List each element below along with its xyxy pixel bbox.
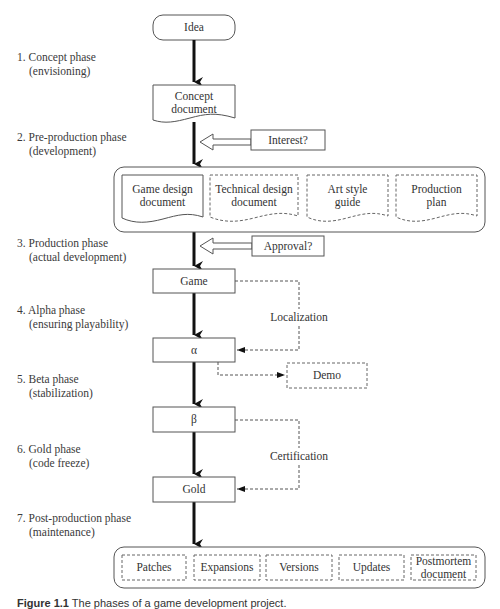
phase-7-label: 7. Post-production phase (maintenance)	[17, 511, 131, 539]
postmortem-document-label: Postmortem document	[411, 555, 476, 581]
game-label: Game	[153, 275, 235, 288]
expansions-label: Expansions	[194, 561, 260, 574]
localization-label: Localization	[259, 311, 339, 324]
technical-design-document-label: Technical design document	[210, 183, 298, 209]
concept-document-label: Concept document	[153, 90, 235, 116]
phase-5-label: 5. Beta phase (stabilization)	[17, 372, 93, 400]
demo-connector	[218, 362, 285, 375]
idea-label: Idea	[153, 21, 235, 34]
approval-gate-label: Approval?	[252, 240, 324, 253]
phase-2-label: 2. Pre-production phase (development)	[17, 130, 127, 158]
phase-4-label: 4. Alpha phase (ensuring playability)	[17, 303, 128, 331]
figure-caption: Figure 1.1 The phases of a game developm…	[17, 597, 286, 609]
game-design-document-label: Game design document	[122, 183, 203, 209]
demo-label: Demo	[287, 369, 367, 382]
patches-label: Patches	[122, 561, 186, 574]
interest-gate-label: Interest?	[251, 134, 325, 147]
versions-label: Versions	[266, 561, 332, 574]
gold-label: Gold	[153, 483, 235, 496]
interest-hollow-arrow	[200, 134, 251, 150]
phase-1-label: 1. Concept phase (envisioning)	[17, 50, 96, 78]
phase-6-label: 6. Gold phase (code freeze)	[17, 442, 89, 470]
production-plan-label: Production plan	[396, 183, 477, 209]
approval-hollow-arrow	[200, 238, 252, 254]
beta-label: β	[153, 413, 235, 426]
alpha-label: α	[153, 344, 235, 357]
art-style-guide-label: Art style guide	[307, 183, 388, 209]
certification-label: Certification	[259, 450, 339, 463]
phase-3-label: 3. Production phase (actual development)	[17, 236, 126, 264]
updates-label: Updates	[339, 561, 404, 574]
